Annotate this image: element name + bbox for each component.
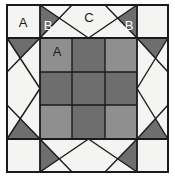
patch-center-r3c3: [105, 105, 137, 139]
quilt-block-diagram: A B C B A: [0, 0, 175, 188]
patch-center-r2c3: [105, 72, 137, 105]
label-center-a: A: [53, 44, 62, 59]
label-wing-b-left: B: [44, 18, 53, 33]
patch-center-r1c2: [72, 38, 105, 72]
patch-corner-bottom-left: [7, 139, 40, 172]
patch-center-r2c2: [72, 72, 105, 105]
label-wing-b-right: B: [125, 18, 134, 33]
label-corner-a: A: [19, 15, 28, 30]
label-geese-c: C: [84, 10, 93, 25]
patch-center-r2c1: [40, 72, 72, 105]
patch-center-r1c3: [105, 38, 137, 72]
patch-center-r3c1: [40, 105, 72, 139]
patch-corner-top-right: [137, 5, 168, 38]
patch-center-r3c2: [72, 105, 105, 139]
quilt-block-svg: A B C B A: [0, 0, 175, 188]
patch-corner-bottom-right: [137, 139, 168, 172]
